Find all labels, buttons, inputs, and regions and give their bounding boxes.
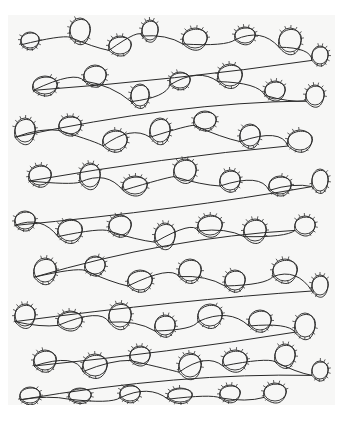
loop <box>70 18 90 42</box>
loop <box>21 32 39 48</box>
loop <box>198 215 222 235</box>
loop <box>249 310 271 330</box>
loop <box>312 169 328 191</box>
loop <box>198 304 222 326</box>
loop <box>269 176 291 194</box>
loop <box>84 65 106 85</box>
loop <box>279 28 301 52</box>
loop <box>273 259 297 281</box>
loop <box>15 211 35 229</box>
loop <box>220 385 240 401</box>
loop <box>155 315 175 335</box>
loop <box>155 223 175 247</box>
loop <box>312 46 328 64</box>
loop <box>174 159 196 181</box>
loop <box>109 215 131 235</box>
loop <box>295 216 315 234</box>
doodle-image <box>0 0 350 436</box>
loop-pattern-drawing <box>0 0 350 436</box>
loop <box>194 111 216 129</box>
loop <box>123 176 147 194</box>
loop <box>34 350 56 370</box>
loop <box>80 163 100 187</box>
loop <box>131 84 149 106</box>
loop <box>20 387 40 403</box>
meander-line <box>15 19 329 404</box>
loop <box>218 64 242 86</box>
loop <box>150 118 170 142</box>
loop <box>168 388 192 402</box>
loop <box>120 385 140 401</box>
loop <box>85 256 105 274</box>
loop <box>142 20 158 40</box>
loop <box>179 259 201 281</box>
loop <box>220 170 240 190</box>
loop <box>34 258 56 282</box>
loop <box>109 36 131 54</box>
loop <box>223 350 247 370</box>
loop <box>109 303 131 327</box>
loop <box>58 311 82 329</box>
loop <box>225 270 245 290</box>
loop <box>15 304 35 326</box>
loop <box>312 361 328 379</box>
loop <box>240 124 260 146</box>
loop <box>58 219 82 241</box>
loop <box>83 354 107 376</box>
loop <box>265 81 285 99</box>
loop <box>295 313 315 337</box>
loop <box>15 118 35 142</box>
loop <box>264 383 286 401</box>
loop <box>244 219 266 241</box>
loop <box>306 85 324 105</box>
loop <box>275 344 295 366</box>
loop <box>312 275 328 295</box>
loop <box>103 130 127 150</box>
loop <box>288 130 312 150</box>
